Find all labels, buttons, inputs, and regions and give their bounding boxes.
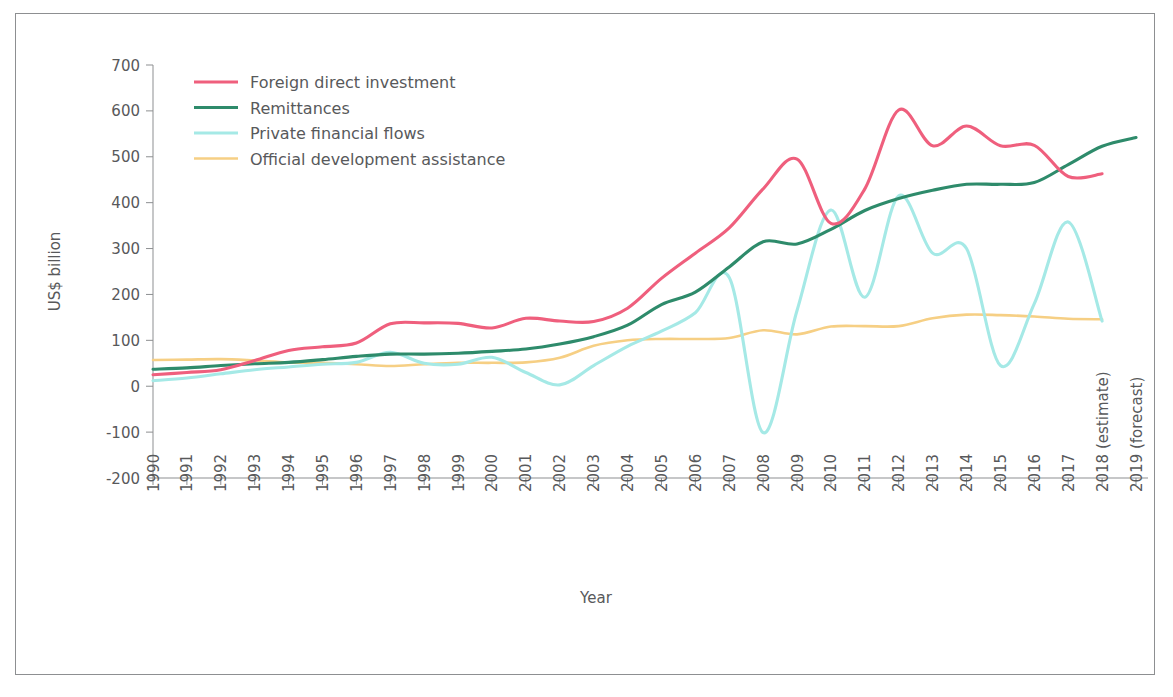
y-tick-label: 100 xyxy=(111,332,140,350)
x-axis-title: Year xyxy=(579,589,613,607)
x-tick-label: 1991 xyxy=(178,454,196,492)
legend: Foreign direct investmentRemittancesPriv… xyxy=(194,73,505,169)
series-line-official-development-assistance xyxy=(153,314,1102,366)
x-tick-label: 2011 xyxy=(856,454,874,492)
y-tick-label: 0 xyxy=(130,378,140,396)
y-axis-title: US$ billion xyxy=(46,232,64,312)
x-tick-label: 2006 xyxy=(687,454,705,492)
x-tick-label: 1995 xyxy=(314,454,332,492)
y-axis-ticks: -200-1000100200300400500600700 xyxy=(106,57,153,488)
x-tick-label: 1990 xyxy=(145,454,163,492)
x-tick-label: 2017 xyxy=(1060,454,1078,492)
figure-frame: -200-1000100200300400500600700US$ billio… xyxy=(15,13,1155,675)
legend-label-1: Foreign direct investment xyxy=(250,73,456,92)
y-tick-label: -100 xyxy=(106,424,140,442)
x-tick-label: 2005 xyxy=(653,454,671,492)
x-tick-label: 2000 xyxy=(483,454,501,492)
x-tick-label: 1997 xyxy=(382,454,400,492)
y-tick-label: -200 xyxy=(106,470,140,488)
legend-label-2: Remittances xyxy=(250,99,350,118)
x-tick-label: 2009 xyxy=(789,454,807,492)
x-tick-label: 2004 xyxy=(619,454,637,492)
legend-label-4: Official development assistance xyxy=(250,150,505,169)
x-tick-label: 2012 xyxy=(890,454,908,492)
line-chart: -200-1000100200300400500600700US$ billio… xyxy=(16,14,1156,676)
legend-label-3: Private financial flows xyxy=(250,124,425,143)
y-tick-label: 200 xyxy=(111,286,140,304)
x-tick-label: 2001 xyxy=(517,454,535,492)
x-tick-label: 2002 xyxy=(551,454,569,492)
x-tick-label: 2008 xyxy=(755,454,773,492)
x-tick-label: 1996 xyxy=(348,454,366,492)
x-tick-label: 2010 xyxy=(822,454,840,492)
x-tick-label: 1992 xyxy=(212,454,230,492)
x-tick-label: 2003 xyxy=(585,454,603,492)
x-tick-label: 2014 xyxy=(958,454,976,492)
x-tick-label: 2013 xyxy=(924,454,942,492)
x-tick-label: 2015 xyxy=(992,454,1010,492)
x-tick-label: 1994 xyxy=(280,454,298,492)
x-tick-label: 1998 xyxy=(416,454,434,492)
x-tick-label: 1993 xyxy=(246,454,264,492)
x-axis-ticks: 1990199119921993199419951996199719981999… xyxy=(145,371,1146,492)
y-tick-label: 600 xyxy=(111,102,140,120)
x-tick-label: 2018 (estimate) xyxy=(1094,371,1112,492)
x-tick-label: 1999 xyxy=(450,454,468,492)
y-tick-label: 400 xyxy=(111,194,140,212)
y-tick-label: 500 xyxy=(111,148,140,166)
x-tick-label: 2016 xyxy=(1026,454,1044,492)
x-tick-label: 2007 xyxy=(721,454,739,492)
x-tick-label: 2019 (forecast) xyxy=(1128,377,1146,492)
y-tick-label: 700 xyxy=(111,57,140,75)
y-tick-label: 300 xyxy=(111,240,140,258)
